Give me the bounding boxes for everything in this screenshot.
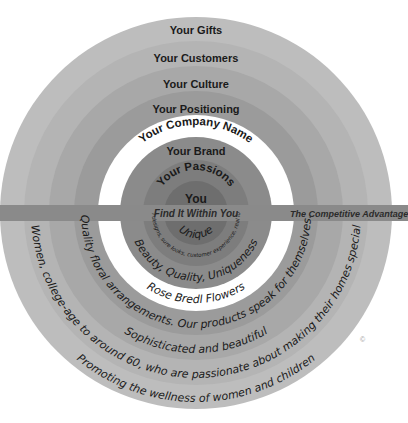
ring-label-brand: Your Brand (166, 145, 225, 157)
ring-label-you: You (185, 192, 207, 206)
copyright-symbol: © (360, 336, 366, 343)
concentric-circles-diagram: Unique Real designs, sure looks, custome… (0, 0, 408, 423)
band-label-find-it-within-you: Find It Within You (154, 208, 238, 219)
band-label-competitive-advantage: The Competitive Advantage (290, 209, 408, 219)
ring-label-customers: Your Customers (154, 52, 239, 64)
ring-label-positioning: Your Positioning (152, 103, 239, 115)
ring-label-gifts: Your Gifts (170, 24, 222, 36)
rings-svg: Unique Real designs, sure looks, custome… (0, 0, 408, 423)
ring-label-culture: Your Culture (163, 78, 229, 90)
